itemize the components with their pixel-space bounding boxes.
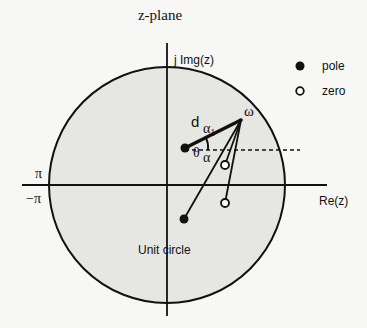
figure-title: z-plane — [138, 7, 182, 23]
alpha-label: α — [203, 150, 211, 165]
theta-label: θ — [193, 145, 200, 160]
unit-circle-label: Unit circle — [138, 243, 191, 257]
pole-marker — [180, 215, 189, 224]
zero-marker — [221, 199, 229, 207]
neg-pi-label: −π — [26, 191, 41, 206]
legend-pole-icon — [296, 62, 305, 71]
zero-marker — [221, 161, 229, 169]
omega-label: ω — [244, 103, 254, 119]
pole-marker — [181, 144, 190, 153]
real-axis-label: Re(z) — [319, 194, 348, 208]
legend-zero-icon — [296, 87, 304, 95]
imaginary-axis-label: j Img(z) — [173, 53, 214, 67]
pi-label: π — [35, 166, 42, 181]
legend-pole-label: pole — [322, 59, 345, 73]
omega-point — [239, 118, 243, 122]
distance-label: d — [191, 113, 199, 130]
z-plane-figure: z-plane j Img(z) Re(z) π −π ω d α1 θ — [0, 0, 367, 328]
legend-zero-label: zero — [322, 84, 346, 98]
legend: pole zero — [296, 59, 346, 98]
